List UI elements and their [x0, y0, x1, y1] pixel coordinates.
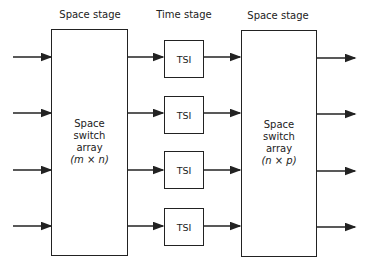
tsi-label: TSI [177, 165, 192, 176]
left-switch-line3: array [52, 142, 127, 154]
left-stage-label: Space stage [50, 9, 130, 20]
tsi-label: TSI [177, 110, 192, 121]
tsi-block-4: TSI [164, 208, 204, 246]
right-switch-dims: (n × p) [242, 155, 316, 167]
tsi-block-3: TSI [164, 151, 204, 189]
right-stage-label: Space stage [238, 10, 318, 21]
left-space-switch-array: Space switch array (m × n) [51, 29, 128, 256]
right-space-switch-array: Space switch array (n × p) [241, 30, 317, 257]
tsi-label: TSI [177, 222, 192, 233]
tsi-block-2: TSI [164, 96, 204, 134]
tsi-block-1: TSI [164, 40, 204, 78]
left-switch-line1: Space [52, 118, 127, 130]
left-switch-dims: (m × n) [52, 154, 127, 166]
right-switch-line2: switch [242, 131, 316, 143]
middle-stage-label: Time stage [144, 9, 224, 20]
right-switch-line3: array [242, 143, 316, 155]
right-switch-line1: Space [242, 119, 316, 131]
tsi-label: TSI [177, 54, 192, 65]
left-switch-line2: switch [52, 130, 127, 142]
